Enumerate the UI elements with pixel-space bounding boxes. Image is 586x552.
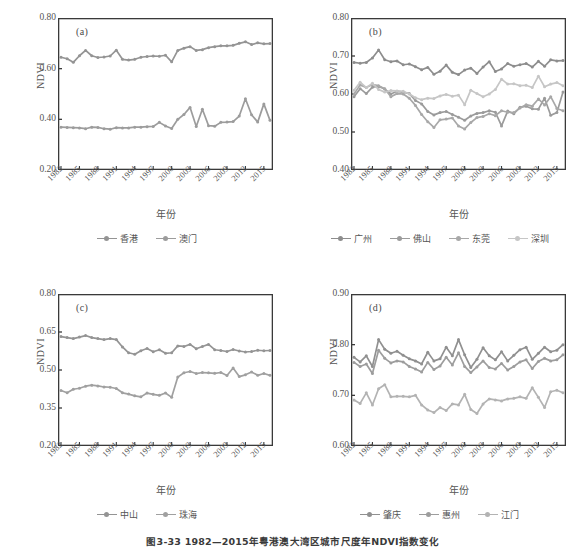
legend-item[interactable]: 澳门 — [156, 232, 197, 245]
panel-c-tag: (c) — [76, 302, 88, 313]
legend-label: 佛山 — [413, 232, 431, 245]
y-tick-label: 0.60 — [22, 64, 56, 74]
panel-d-x-axis-label: 年份 — [351, 482, 566, 497]
legend-item[interactable]: 佛山 — [390, 232, 431, 245]
legend-label: 澳门 — [179, 232, 197, 245]
legend-marker-icon — [478, 511, 498, 519]
panel-a-x-axis-label: 年份 — [58, 206, 273, 221]
legend-label: 肇庆 — [383, 508, 401, 521]
y-tick-label: 0.65 — [22, 327, 56, 337]
panel-a-plot — [58, 18, 273, 170]
panel-d-plot — [351, 294, 566, 446]
panel-c-legend: 中山珠海 — [0, 508, 293, 521]
panel-b: NDVI 0.400.500.600.700.80 (b) 1982198519… — [293, 0, 586, 276]
y-tick-label: 0.80 — [315, 340, 349, 350]
legend-label: 江门 — [501, 508, 519, 521]
panel-d-x-ticks: 1982198519881991199419972000200320062009… — [351, 448, 566, 482]
y-tick-label: 0.90 — [315, 289, 349, 299]
y-tick-label: 0.50 — [22, 365, 56, 375]
legend-item[interactable]: 珠海 — [156, 508, 197, 521]
legend-marker-icon — [97, 235, 117, 243]
panel-a-y-ticks: 0.200.400.600.80 — [18, 18, 56, 170]
legend-marker-icon — [419, 511, 439, 519]
y-tick-label: 0.70 — [315, 51, 349, 61]
panel-d-svg — [351, 294, 566, 446]
panel-a-tag: (a) — [76, 26, 88, 37]
legend-label: 中山 — [120, 508, 138, 521]
y-tick-label: 0.80 — [22, 289, 56, 299]
panel-c-x-ticks: 1982198519881991199419972000200320062009… — [58, 448, 273, 482]
panel-c-plot — [58, 294, 273, 446]
legend-item[interactable]: 惠州 — [419, 508, 460, 521]
ndvi-figure: NDVI 0.200.400.600.80 (a) 19821985198819… — [0, 0, 586, 552]
legend-item[interactable]: 香港 — [97, 232, 138, 245]
panel-b-svg — [351, 18, 566, 170]
legend-item[interactable]: 江门 — [478, 508, 519, 521]
y-tick-label: 0.80 — [315, 13, 349, 23]
panel-a: NDVI 0.200.400.600.80 (a) 19821985198819… — [0, 0, 293, 276]
panel-grid: NDVI 0.200.400.600.80 (a) 19821985198819… — [0, 0, 586, 552]
legend-label: 珠海 — [179, 508, 197, 521]
legend-label: 深圳 — [531, 232, 549, 245]
y-tick-label: 0.60 — [315, 89, 349, 99]
panel-b-x-axis-label: 年份 — [351, 206, 566, 221]
legend-marker-icon — [390, 235, 410, 243]
panel-b-y-ticks: 0.400.500.600.700.80 — [311, 18, 349, 170]
legend-item[interactable]: 肇庆 — [360, 508, 401, 521]
y-tick-label: 0.70 — [315, 390, 349, 400]
legend-label: 惠州 — [442, 508, 460, 521]
legend-marker-icon — [156, 235, 176, 243]
panel-b-x-ticks: 1982198519881991199419972000200320062009… — [351, 172, 566, 206]
y-tick-label: 0.50 — [315, 127, 349, 137]
legend-marker-icon — [508, 235, 528, 243]
panel-b-plot — [351, 18, 566, 170]
y-tick-label: 0.80 — [22, 13, 56, 23]
panel-b-tag: (b) — [369, 26, 382, 37]
legend-marker-icon — [97, 511, 117, 519]
panel-a-legend: 香港澳门 — [0, 232, 293, 245]
legend-item[interactable]: 深圳 — [508, 232, 549, 245]
panel-b-legend: 广州佛山东莞深圳 — [293, 232, 586, 245]
legend-marker-icon — [360, 511, 380, 519]
legend-label: 广州 — [354, 232, 372, 245]
panel-c-y-ticks: 0.200.350.500.650.80 — [18, 294, 56, 446]
legend-marker-icon — [156, 511, 176, 519]
panel-d-legend: 肇庆惠州江门 — [293, 508, 586, 521]
panel-d-tag: (d) — [369, 302, 382, 313]
figure-caption: 图3-33 1982—2015年粤港澳大湾区城市尺度年NDVI指数变化 — [0, 534, 586, 548]
legend-label: 香港 — [120, 232, 138, 245]
y-tick-label: 0.35 — [22, 403, 56, 413]
panel-c-x-axis-label: 年份 — [58, 482, 273, 497]
panel-d-y-ticks: 0.600.700.800.90 — [311, 294, 349, 446]
y-tick-label: 0.40 — [22, 114, 56, 124]
legend-marker-icon — [331, 235, 351, 243]
panel-c-svg — [58, 294, 273, 446]
legend-item[interactable]: 中山 — [97, 508, 138, 521]
panel-a-svg — [58, 18, 273, 170]
legend-marker-icon — [449, 235, 469, 243]
panel-a-x-ticks: 1982198519881991199419972000200320062009… — [58, 172, 273, 206]
legend-item[interactable]: 东莞 — [449, 232, 490, 245]
legend-label: 东莞 — [472, 232, 490, 245]
panel-c: NDVI 0.200.350.500.650.80 (c) 1982198519… — [0, 276, 293, 552]
panel-d: NDVI 0.600.700.800.90 (d) 19821985198819… — [293, 276, 586, 552]
legend-item[interactable]: 广州 — [331, 232, 372, 245]
